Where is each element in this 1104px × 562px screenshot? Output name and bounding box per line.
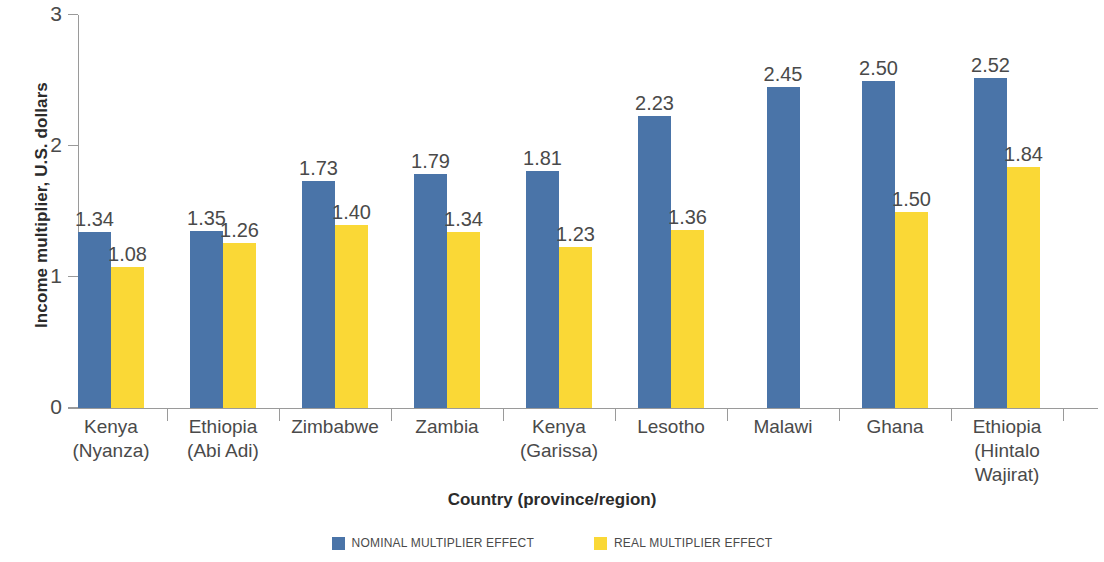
bar-value-label: 1.36 <box>668 207 707 227</box>
x-axis-tick <box>1063 408 1064 421</box>
x-axis-category-label: Ghana <box>839 415 951 439</box>
bar-group: 1.791.34 <box>391 15 503 408</box>
bar-real: 1.26 <box>223 243 256 408</box>
bar-nominal: 2.45 <box>767 87 800 408</box>
legend-item[interactable]: REAL MULTIPLIER EFFECT <box>594 536 772 550</box>
legend-item[interactable]: NOMINAL MULTIPLIER EFFECT <box>332 536 534 550</box>
x-axis-category-label: Zambia <box>391 415 503 439</box>
x-axis-category-label: Zimbabwe <box>279 415 391 439</box>
legend-label: NOMINAL MULTIPLIER EFFECT <box>352 536 534 550</box>
category-label-line: (Hintalo <box>951 439 1063 463</box>
category-label-line: Wajirat) <box>951 463 1063 487</box>
category-label-line: (Abi Adi) <box>167 439 279 463</box>
x-axis-category-label: Lesotho <box>615 415 727 439</box>
bar-nominal: 2.23 <box>638 116 671 408</box>
bar-nominal: 1.35 <box>190 231 223 408</box>
bar-value-label: 1.08 <box>108 244 147 264</box>
bar-group: 1.731.40 <box>279 15 391 408</box>
bar-value-label: 1.26 <box>220 220 259 240</box>
bar-value-label: 1.34 <box>444 209 483 229</box>
legend-swatch-icon <box>332 537 345 550</box>
bar-nominal: 1.79 <box>414 174 447 408</box>
category-label-line: (Garissa) <box>503 439 615 463</box>
bar-group: 2.501.50 <box>839 15 951 408</box>
x-axis-category-label: Kenya(Garissa) <box>503 415 615 463</box>
bar-value-label: 2.45 <box>764 64 803 84</box>
bar-real: 1.34 <box>447 232 480 408</box>
bar-chart-figure: Income multiplier, U.S. dollars 0123 1.3… <box>0 0 1104 562</box>
bar-group: 2.231.36 <box>615 15 727 408</box>
category-label-line: Kenya <box>55 415 167 439</box>
bar-real: 1.08 <box>111 267 144 408</box>
bar-nominal: 1.81 <box>526 171 559 408</box>
category-label-line: (Nyanza) <box>55 439 167 463</box>
bar-value-label: 1.84 <box>1004 144 1043 164</box>
bar-value-label: 2.23 <box>635 93 674 113</box>
bar-group: 1.351.26 <box>167 15 279 408</box>
category-label-line: Ghana <box>839 415 951 439</box>
bar-group: 2.45 <box>727 15 839 408</box>
x-axis-title: Country (province/region) <box>0 490 1104 510</box>
bar-value-label: 2.52 <box>971 55 1010 75</box>
bar-nominal: 1.73 <box>302 181 335 408</box>
bar-value-label: 1.81 <box>523 148 562 168</box>
bar-value-label: 1.50 <box>892 189 931 209</box>
chart-legend: NOMINAL MULTIPLIER EFFECTREAL MULTIPLIER… <box>0 536 1104 550</box>
category-label-line: Malawi <box>727 415 839 439</box>
bar-nominal: 2.52 <box>974 78 1007 408</box>
plot-area: 0123 1.341.081.351.261.731.401.791.341.8… <box>78 15 1098 408</box>
bar-real: 1.84 <box>1007 167 1040 408</box>
bar-real: 1.50 <box>895 212 928 409</box>
bar-value-label: 1.23 <box>556 224 595 244</box>
bar-value-label: 1.79 <box>411 151 450 171</box>
x-axis-category-label: Ethiopia(HintaloWajirat) <box>951 415 1063 487</box>
category-label-line: Zambia <box>391 415 503 439</box>
bar-value-label: 1.34 <box>75 209 114 229</box>
bar-group: 1.341.08 <box>55 15 167 408</box>
bar-group: 2.521.84 <box>951 15 1063 408</box>
legend-label: REAL MULTIPLIER EFFECT <box>614 536 772 550</box>
legend-swatch-icon <box>594 537 607 550</box>
category-label-line: Zimbabwe <box>279 415 391 439</box>
category-label-line: Ethiopia <box>951 415 1063 439</box>
bar-real: 1.40 <box>335 225 368 408</box>
bar-value-label: 2.50 <box>859 58 898 78</box>
bar-group: 1.811.23 <box>503 15 615 408</box>
bar-real: 1.36 <box>671 230 704 408</box>
category-label-line: Ethiopia <box>167 415 279 439</box>
bar-value-label: 1.40 <box>332 202 371 222</box>
bar-nominal: 1.34 <box>78 232 111 408</box>
bar-real: 1.23 <box>559 247 592 408</box>
y-axis-title: Income multiplier, U.S. dollars <box>32 45 52 365</box>
category-label-line: Lesotho <box>615 415 727 439</box>
x-axis-category-label: Kenya(Nyanza) <box>55 415 167 463</box>
x-axis-category-label: Ethiopia(Abi Adi) <box>167 415 279 463</box>
bar-value-label: 1.73 <box>299 158 338 178</box>
x-axis-line <box>68 408 1098 409</box>
category-label-line: Kenya <box>503 415 615 439</box>
x-axis-category-label: Malawi <box>727 415 839 439</box>
bar-nominal: 2.50 <box>862 81 895 409</box>
